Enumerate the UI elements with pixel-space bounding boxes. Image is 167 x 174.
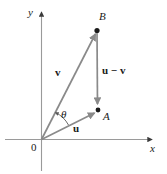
point-B-dot	[94, 28, 99, 33]
y-axis-label: y	[28, 7, 33, 18]
point-A-label: A	[103, 111, 110, 122]
vector-u-arrow	[42, 113, 95, 140]
vector-u-minus-v-arrow	[97, 32, 98, 104]
vector-u-minus-v-label: u − v	[102, 65, 125, 76]
vector-u-label: u	[73, 123, 79, 134]
theta-angle-label: θ	[61, 109, 66, 120]
vector-diagram-figure: y x 0 B A v u u − v θ	[0, 0, 167, 174]
origin-label: 0	[31, 142, 37, 153]
vector-v-arrow	[42, 34, 96, 140]
point-B-label: B	[99, 11, 106, 22]
vector-diagram-canvas	[0, 0, 167, 174]
x-axis-label: x	[150, 143, 155, 154]
point-A-dot	[96, 108, 101, 113]
vector-v-label: v	[55, 67, 61, 78]
